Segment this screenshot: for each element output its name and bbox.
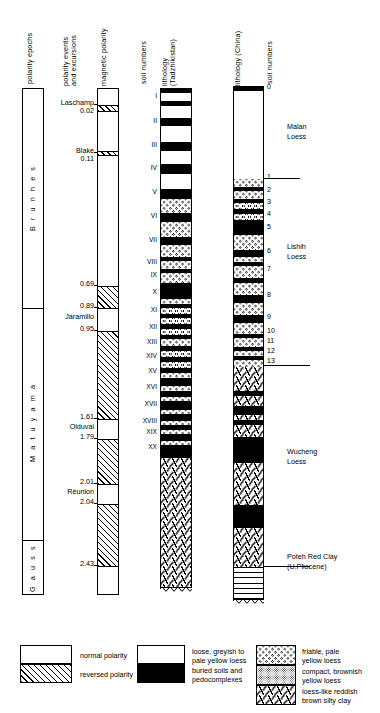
china-bed-ring bbox=[234, 283, 263, 295]
header-soil-numbers-left: soil numbers bbox=[140, 22, 148, 84]
tadzhikistan-soil-number: XVI bbox=[120, 383, 157, 391]
tadzhikistan-bed-ring bbox=[161, 245, 191, 257]
polarity-event-label: 2.01 bbox=[36, 478, 94, 486]
tadzhikistan-bed-ring bbox=[161, 199, 191, 213]
tadzhikistan-lithology-column bbox=[160, 88, 192, 588]
china-bed-ring bbox=[234, 323, 263, 334]
tadzhikistan-unconformity-icon bbox=[160, 585, 192, 593]
header-lithology-china: lithology (China) bbox=[234, 14, 242, 86]
china-unit-label: Lishih Loess bbox=[287, 242, 306, 263]
tadzhikistan-soil-number: I bbox=[120, 92, 157, 100]
legend-swatch-buried-soils bbox=[137, 664, 185, 683]
china-bed-horizontal bbox=[234, 567, 263, 600]
polarity-event-label: 2.04 bbox=[36, 498, 94, 506]
china-bed-ring bbox=[234, 303, 263, 315]
tadzhikistan-soil-number: XV bbox=[120, 367, 157, 375]
header-polarity-epochs: polarity epochs bbox=[26, 14, 34, 84]
magnetic-polarity-segment-normal bbox=[98, 566, 118, 595]
tadzhikistan-bed-black bbox=[161, 445, 191, 458]
china-soil-number: 10 bbox=[267, 327, 275, 335]
china-bed-clay bbox=[234, 367, 263, 391]
tadzhikistan-soil-number: XX bbox=[120, 443, 157, 451]
china-bed-clay bbox=[234, 425, 263, 437]
tadzhikistan-soil-number: XI bbox=[120, 306, 157, 314]
polarity-boundary bbox=[98, 286, 118, 287]
epoch-label: B r u n h e s bbox=[29, 160, 37, 236]
tadzhikistan-bed-ring bbox=[161, 339, 191, 346]
tadzhikistan-bed-black bbox=[161, 237, 191, 245]
china-bed-black bbox=[234, 437, 263, 463]
magnetic-polarity-segment-reversed bbox=[98, 286, 118, 308]
polarity-event-label: 0.95 bbox=[36, 325, 94, 333]
polarity-boundary bbox=[98, 331, 118, 332]
china-bed-clay bbox=[234, 528, 263, 567]
polarity-boundary bbox=[98, 155, 118, 156]
polarity-boundary bbox=[98, 504, 118, 505]
legend-swatch-loose-loess bbox=[137, 645, 185, 664]
tadzhikistan-bed-ring bbox=[161, 261, 191, 269]
china-unconformity-icon bbox=[233, 597, 264, 605]
china-soil-number: 9 bbox=[267, 313, 271, 321]
legend-label-buried-soils: buried soils and pedocomplexes bbox=[192, 666, 242, 685]
china-unit-label: Malan Loess bbox=[287, 122, 307, 143]
tadzhikistan-bed-black bbox=[161, 164, 191, 174]
tadzhikistan-bed-black bbox=[161, 189, 191, 199]
china-bed-ring bbox=[234, 179, 263, 187]
tie-line-poteh bbox=[264, 566, 310, 567]
polarity-boundary bbox=[98, 566, 118, 567]
tadzhikistan-bed-black bbox=[161, 401, 191, 410]
tadzhikistan-bed-stipple bbox=[161, 93, 191, 101]
tadzhikistan-bed-stipple bbox=[161, 174, 191, 189]
china-bed-black bbox=[234, 406, 263, 415]
polarity-event-label: Laschamp 0.02 bbox=[36, 99, 94, 116]
china-bed-stipple bbox=[234, 91, 263, 179]
polarity-event-label: Réunion bbox=[36, 488, 94, 496]
legend-swatch-silty-clay bbox=[256, 685, 296, 705]
magnetic-polarity-segment-reversed bbox=[98, 331, 118, 419]
china-soil-number: 3 bbox=[267, 198, 271, 206]
tadzhikistan-bed-black bbox=[161, 213, 191, 222]
magnetic-polarity-segment-normal bbox=[98, 484, 118, 504]
china-soil-number: 12 bbox=[267, 347, 275, 355]
magnetic-polarity-segment-normal bbox=[98, 419, 118, 439]
tadzhikistan-bed-black bbox=[161, 434, 191, 441]
tadzhikistan-bed-stipple bbox=[161, 106, 191, 118]
china-soil-number: 13 bbox=[267, 357, 275, 365]
china-soil-number: 11 bbox=[267, 337, 274, 345]
china-bed-black bbox=[234, 295, 263, 303]
legend-swatch-reversed-polarity bbox=[20, 664, 72, 683]
china-bed-black bbox=[234, 505, 263, 528]
header-magnetic-polarity: magnetic polarity bbox=[100, 14, 108, 86]
polarity-boundary bbox=[98, 111, 118, 112]
polarity-event-label: 2.43 bbox=[36, 560, 94, 568]
legend-label-reversed-polarity: reversed polarity bbox=[80, 670, 133, 679]
tadzhikistan-soil-number: II bbox=[120, 117, 157, 125]
china-soil-number: 0 bbox=[267, 83, 271, 91]
tadzhikistan-soil-number: VI bbox=[120, 212, 157, 220]
china-bed-clay bbox=[234, 463, 263, 505]
china-bed-black bbox=[234, 315, 263, 323]
magnetic-polarity-segment-normal bbox=[98, 308, 118, 331]
polarity-event-label: 0.89 bbox=[36, 302, 94, 310]
china-bed-ring bbox=[234, 266, 263, 278]
polarity-boundary bbox=[98, 439, 118, 440]
tadzhikistan-bed-black bbox=[161, 142, 191, 151]
china-unit-label: Poteh Red Clay (U.Pliocene) bbox=[287, 552, 337, 573]
legend-label-normal-polarity: normal polarity bbox=[80, 651, 127, 660]
china-bed-clay bbox=[234, 396, 263, 406]
tadzhikistan-bed-ring bbox=[161, 273, 191, 283]
magnetic-polarity-segment-normal bbox=[98, 111, 118, 151]
tadzhikistan-soil-number: III bbox=[120, 141, 157, 149]
stratigraphic-correlation-figure: polarity epochs polarity events and excu… bbox=[0, 0, 380, 713]
china-soil-number: 7 bbox=[267, 265, 271, 273]
tadzhikistan-soil-number: IX bbox=[120, 271, 157, 279]
china-lithology-column bbox=[233, 86, 264, 600]
legend-swatch-friable-loess bbox=[256, 645, 296, 665]
tadzhikistan-bed-clay bbox=[161, 458, 191, 588]
china-bed-black bbox=[234, 250, 263, 257]
tadzhikistan-bed-black bbox=[161, 283, 191, 299]
polarity-event-label: Jaramillo bbox=[36, 313, 94, 321]
china-bed-ring bbox=[234, 360, 263, 367]
magnetic-polarity-segment-normal bbox=[98, 155, 118, 286]
magnetic-polarity-segment-reversed bbox=[98, 439, 118, 484]
